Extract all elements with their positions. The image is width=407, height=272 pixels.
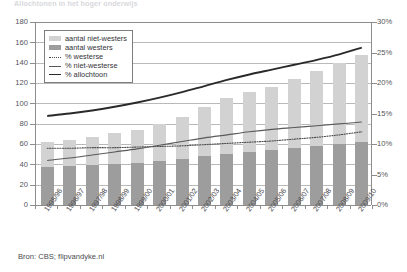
bar-segment-niet-westers	[86, 137, 99, 165]
y-tick-label-right: 15%	[377, 109, 405, 118]
y-tick-mark-right	[372, 83, 377, 84]
y-tick-label-left: 180	[2, 17, 28, 26]
x-tick-mark	[57, 205, 58, 209]
y-tick-label-right: 5%	[377, 170, 405, 179]
y-tick-label-right: 10%	[377, 139, 405, 148]
y-tick-label-right: 20%	[377, 78, 405, 87]
legend-label: aantal westers	[65, 43, 113, 52]
chart-container: Allochtonen in het hoger onderwijs 18016…	[0, 0, 407, 272]
bar-group	[220, 22, 233, 205]
bar-segment-niet-westers	[265, 87, 278, 150]
thick-line-icon	[49, 71, 61, 79]
bar-group	[265, 22, 278, 205]
bar-segment-niet-westers	[198, 107, 211, 156]
bar-group	[288, 22, 301, 205]
legend-label: % niet-westerse	[65, 61, 118, 70]
bar-segment-niet-westers	[131, 130, 144, 164]
legend-label: % allochtoon	[65, 70, 107, 79]
y-tick-label-left: 120	[2, 78, 28, 87]
bar-segment-niet-westers	[220, 98, 233, 154]
x-tick-mark	[372, 205, 373, 209]
y-tick-label-left: 100	[2, 99, 28, 108]
x-tick-mark	[80, 205, 81, 209]
bar-segment-niet-westers	[63, 140, 76, 166]
x-tick-mark	[305, 205, 306, 209]
dotted-line-icon	[49, 53, 61, 61]
thin-line-icon	[49, 62, 61, 70]
legend-item-aantal-niet-westers: aantal niet-westers	[49, 34, 127, 43]
x-tick-mark	[350, 205, 351, 209]
legend-item-pct-westerse: % westerse	[49, 52, 127, 61]
bar-group	[355, 22, 368, 205]
x-tick-mark	[147, 205, 148, 209]
x-tick-mark	[125, 205, 126, 209]
bar-group	[243, 22, 256, 205]
bar-segment-niet-westers	[176, 117, 189, 160]
bar-group	[176, 22, 189, 205]
y-tick-label-left: 80	[2, 119, 28, 128]
bar-group	[198, 22, 211, 205]
legend-item-pct-allochtoon: % allochtoon	[49, 70, 127, 79]
y-tick-mark-right	[372, 53, 377, 54]
x-tick-mark	[215, 205, 216, 209]
legend-item-aantal-westers: aantal westers	[49, 43, 127, 52]
bar-group	[310, 22, 323, 205]
bar-segment-niet-westers	[333, 63, 346, 144]
swatch-light-icon	[49, 35, 61, 43]
chart-legend: aantal niet-westers aantal westers % wes…	[44, 30, 133, 83]
legend-item-pct-niet-westerse: % niet-westerse	[49, 61, 127, 70]
x-tick-mark	[102, 205, 103, 209]
y-tick-label-right: 30%	[377, 17, 405, 26]
bar-segment-niet-westers	[355, 55, 368, 142]
y-tick-label-left: 140	[2, 58, 28, 67]
bar-segment-niet-westers	[108, 133, 121, 165]
swatch-dark-icon	[49, 44, 61, 52]
bar-segment-niet-westers	[310, 71, 323, 146]
y-tick-mark-right	[372, 114, 377, 115]
bar-group	[153, 22, 166, 205]
bar-segment-niet-westers	[153, 124, 166, 162]
y-tick-mark-right	[372, 22, 377, 23]
x-tick-mark	[170, 205, 171, 209]
y-tick-label-left: 160	[2, 38, 28, 47]
y-tick-label-left: 20	[2, 180, 28, 189]
bar-segment-niet-westers	[41, 142, 54, 167]
x-tick-mark	[237, 205, 238, 209]
bar-group	[333, 22, 346, 205]
legend-label: % westerse	[65, 52, 103, 61]
chart-title: Allochtonen in het hoger onderwijs	[14, 0, 138, 8]
y-tick-label-right: 25%	[377, 48, 405, 57]
x-tick-mark	[260, 205, 261, 209]
y-tick-label-left: 0	[2, 200, 28, 209]
y-tick-label-left: 60	[2, 139, 28, 148]
y-tick-label-right: 0%	[377, 200, 405, 209]
y-tick-mark-right	[372, 175, 377, 176]
x-tick-mark	[192, 205, 193, 209]
x-tick-mark	[327, 205, 328, 209]
x-tick-mark	[282, 205, 283, 209]
bar-segment-niet-westers	[243, 92, 256, 152]
y-tick-mark-right	[372, 144, 377, 145]
y-tick-label-left: 40	[2, 160, 28, 169]
x-tick-mark	[35, 205, 36, 209]
bar-segment-niet-westers	[288, 79, 301, 148]
source-note: Bron: CBS; flipvandyke.nl	[18, 252, 104, 261]
legend-label: aantal niet-westers	[65, 34, 127, 43]
